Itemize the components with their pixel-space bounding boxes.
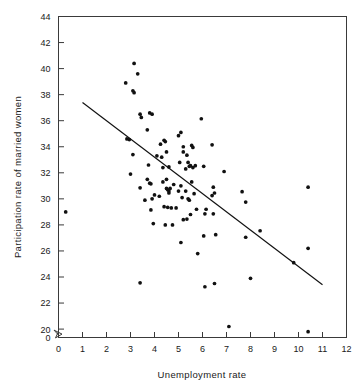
data-point bbox=[157, 194, 161, 198]
y-tick-label: 28 bbox=[40, 220, 50, 230]
y-tick-label: 44 bbox=[40, 12, 50, 22]
data-point bbox=[172, 183, 176, 187]
data-point bbox=[196, 252, 200, 256]
data-point bbox=[166, 205, 170, 209]
y-tick-label: 42 bbox=[40, 38, 50, 48]
data-point bbox=[211, 212, 215, 216]
x-axis-title: Unemployment rate bbox=[158, 369, 247, 380]
data-point bbox=[222, 170, 226, 174]
data-point bbox=[184, 189, 188, 193]
data-point bbox=[240, 190, 244, 194]
data-point bbox=[179, 184, 183, 188]
data-point bbox=[129, 172, 133, 176]
data-point bbox=[165, 150, 169, 154]
data-point bbox=[169, 206, 173, 210]
data-point bbox=[214, 233, 218, 237]
data-point bbox=[162, 205, 166, 209]
data-point bbox=[132, 91, 136, 95]
y-tick-label: 32 bbox=[40, 168, 50, 178]
y-tick-label: 22 bbox=[40, 298, 50, 308]
data-point bbox=[213, 191, 217, 195]
x-tick-label: 11 bbox=[318, 344, 327, 354]
data-point bbox=[161, 180, 165, 184]
data-point bbox=[124, 81, 128, 85]
x-tick-label: 12 bbox=[341, 344, 351, 354]
data-point bbox=[185, 217, 189, 221]
data-point bbox=[178, 161, 182, 165]
data-point bbox=[138, 112, 142, 116]
data-point bbox=[150, 112, 154, 116]
x-tick-label: 4 bbox=[152, 344, 157, 354]
data-point bbox=[168, 187, 172, 191]
y-tick-label: 34 bbox=[40, 142, 50, 152]
data-point bbox=[174, 206, 178, 210]
data-point bbox=[64, 210, 68, 214]
data-point bbox=[192, 192, 196, 196]
data-point bbox=[306, 330, 310, 334]
y-tick-label: 36 bbox=[40, 116, 50, 126]
data-point bbox=[204, 207, 208, 211]
x-tick-label: 6 bbox=[200, 344, 205, 354]
data-point bbox=[131, 153, 135, 157]
data-point bbox=[202, 234, 206, 238]
data-point bbox=[258, 229, 262, 233]
data-point bbox=[195, 207, 199, 211]
data-point bbox=[159, 142, 163, 146]
x-tick-label: 9 bbox=[272, 344, 277, 354]
data-point bbox=[184, 167, 188, 171]
y-tick-label: 24 bbox=[40, 272, 50, 282]
data-point bbox=[189, 213, 193, 217]
data-point bbox=[193, 164, 197, 168]
y-axis-title: Participation rate of married women bbox=[12, 96, 23, 258]
data-point bbox=[179, 131, 183, 135]
y-tick-label: 30 bbox=[40, 194, 50, 204]
data-point bbox=[181, 150, 185, 154]
data-point bbox=[227, 325, 231, 329]
data-point bbox=[185, 153, 189, 157]
data-point bbox=[203, 285, 207, 289]
data-point bbox=[249, 276, 253, 280]
data-point bbox=[203, 212, 207, 216]
x-tick-label: 2 bbox=[104, 344, 109, 354]
data-point bbox=[163, 140, 167, 144]
data-point bbox=[147, 163, 151, 167]
x-tick-label: 10 bbox=[293, 344, 303, 354]
data-point bbox=[139, 116, 143, 120]
y-tick-label: 26 bbox=[40, 246, 50, 256]
data-point bbox=[179, 241, 183, 245]
data-point bbox=[160, 155, 164, 159]
x-tick-label: 5 bbox=[176, 344, 181, 354]
x-tick-label: 3 bbox=[128, 344, 133, 354]
data-point bbox=[187, 198, 191, 202]
data-point bbox=[138, 281, 142, 285]
data-point bbox=[153, 193, 157, 197]
data-point bbox=[155, 154, 159, 158]
data-point bbox=[306, 185, 310, 189]
y-tick-label: 38 bbox=[40, 90, 50, 100]
x-tick-label: 8 bbox=[248, 344, 253, 354]
data-point bbox=[177, 189, 181, 193]
data-point bbox=[190, 180, 194, 184]
data-point bbox=[132, 62, 136, 66]
data-point bbox=[202, 164, 206, 168]
data-point bbox=[191, 146, 195, 150]
y-tick-label: 20 bbox=[40, 325, 50, 335]
data-point bbox=[138, 186, 142, 190]
data-point bbox=[150, 197, 154, 201]
data-point bbox=[163, 223, 167, 227]
data-point bbox=[210, 143, 214, 147]
data-point bbox=[211, 185, 215, 189]
scatter-plot-figure: 020222426283032343638404244 012345678910… bbox=[0, 0, 361, 391]
chart-canvas: 020222426283032343638404244 012345678910… bbox=[0, 0, 361, 391]
data-point bbox=[181, 218, 185, 222]
data-point bbox=[143, 198, 147, 202]
data-point bbox=[244, 200, 248, 204]
data-point bbox=[186, 161, 190, 165]
data-point bbox=[165, 177, 169, 181]
x-tick-label: 0 bbox=[56, 344, 61, 354]
data-point bbox=[167, 191, 171, 195]
data-point bbox=[180, 196, 184, 200]
data-point bbox=[149, 208, 153, 212]
data-point bbox=[306, 247, 310, 251]
y-tick-label: 40 bbox=[40, 64, 50, 74]
